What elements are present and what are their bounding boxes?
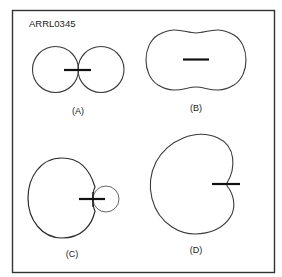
- antenna-pattern-figure: ARRL0345 (A) (B) (C) (D): [0, 0, 282, 277]
- panel-caption-d: (D): [190, 245, 203, 255]
- figure-id-label: ARRL0345: [29, 18, 75, 29]
- panel-caption-c: (C): [66, 249, 79, 259]
- panel-caption-b: (B): [190, 103, 202, 113]
- panel-caption-a: (A): [72, 106, 84, 116]
- figure-frame: [13, 11, 275, 273]
